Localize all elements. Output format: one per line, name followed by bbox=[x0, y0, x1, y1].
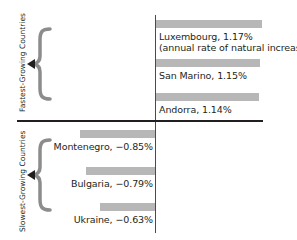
bar-ukraine bbox=[100, 203, 155, 211]
bar-luxembourg bbox=[156, 20, 262, 28]
natural-increase-chart: Luxembourg, 1.17% (annual rate of natura… bbox=[0, 0, 297, 240]
bar-andorra bbox=[156, 93, 259, 101]
brace-arrow-icon bbox=[26, 26, 54, 102]
label-montenegro: Montenegro, −0.85% bbox=[54, 141, 153, 152]
label-ukraine: Ukraine, −0.63% bbox=[74, 214, 153, 225]
zero-axis-line bbox=[155, 15, 156, 233]
brace-arrow-icon bbox=[26, 137, 54, 213]
bar-san-marino bbox=[156, 59, 260, 67]
bar-bulgaria bbox=[86, 167, 155, 175]
group-divider-line bbox=[17, 120, 263, 122]
bar-montenegro bbox=[80, 130, 155, 138]
label-andorra: Andorra, 1.14% bbox=[159, 104, 232, 115]
label-luxembourg: Luxembourg, 1.17% bbox=[159, 31, 253, 42]
label-bulgaria: Bulgaria, −0.79% bbox=[71, 178, 153, 189]
label-axis-note: (annual rate of natural increase) bbox=[159, 42, 297, 53]
label-san-marino: San Marino, 1.15% bbox=[159, 70, 247, 81]
